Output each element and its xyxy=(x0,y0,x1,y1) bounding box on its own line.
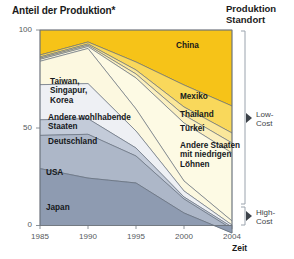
taiwan-line1: Taiwan, xyxy=(50,77,110,86)
low-cost-arrow-icon xyxy=(246,113,252,123)
series-label-tuerkei: Türkei xyxy=(180,124,205,133)
series-label-japan: Japan xyxy=(46,203,70,212)
series-label-usa: USA xyxy=(46,168,63,177)
high-cost-label-line1: High- xyxy=(256,208,275,217)
series-label-taiwan-singapur-korea: Taiwan, Singapur, Korea xyxy=(50,77,110,105)
y-tick-label-0: 0 xyxy=(8,220,32,229)
x-tick-label-1995: 1995 xyxy=(116,232,156,241)
series-label-andere-niedrige-loehne: Andere Staaten mit niedrigen Löhnen xyxy=(180,141,242,169)
low-cost-label-line1: Low- xyxy=(256,110,273,119)
wohlhabend-line2: Staaten xyxy=(48,122,153,131)
andere-niedrige-loehne-line1: Andere Staaten xyxy=(180,141,242,150)
x-tick-label-1985: 1985 xyxy=(20,232,60,241)
x-tick-label-2004: 2004 xyxy=(212,232,252,241)
low-cost-bracket xyxy=(241,31,245,204)
series-label-deutschland: Deutschland xyxy=(48,137,97,146)
x-tick-label-1990: 1990 xyxy=(68,232,108,241)
high-cost-label-line2: Cost xyxy=(256,217,275,226)
chart-root: Anteil der Produktion* Produktion Stando… xyxy=(0,0,294,259)
low-cost-label-line2: Cost xyxy=(256,119,273,128)
series-label-china: China xyxy=(176,41,199,50)
high-cost-arrow-icon xyxy=(246,211,252,221)
x-tick-label-2000: 2000 xyxy=(164,232,204,241)
series-label-mexiko: Mexiko xyxy=(180,92,208,101)
taiwan-line2: Singapur, xyxy=(50,86,110,95)
taiwan-line3: Korea xyxy=(50,96,110,105)
andere-niedrige-loehne-line2: mit niedrigen xyxy=(180,150,242,159)
x-axis-title: Zeit xyxy=(232,243,247,253)
wohlhabend-line1: Andere wohlhabende xyxy=(48,113,153,122)
low-cost-label: Low- Cost xyxy=(256,110,273,129)
y-tick-label-50: 50 xyxy=(8,123,32,132)
series-label-thailand: Thailand xyxy=(180,110,214,119)
y-tick-label-100: 100 xyxy=(8,25,32,34)
high-cost-bracket xyxy=(241,207,245,225)
series-label-andere-wohlhabende-staaten: Andere wohlhabende Staaten xyxy=(48,113,153,132)
andere-niedrige-loehne-line3: Löhnen xyxy=(180,160,242,169)
high-cost-label: High- Cost xyxy=(256,208,275,227)
